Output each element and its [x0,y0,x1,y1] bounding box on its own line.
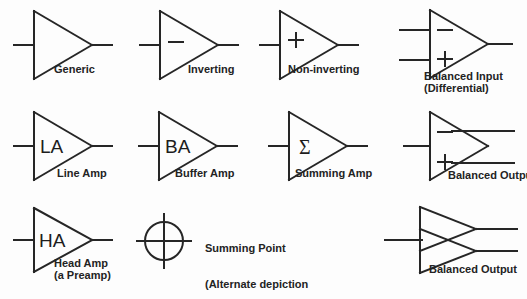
symbol-generic-amplifier-label: Generic [54,64,95,76]
symbol-balanced-output-dual-amplifier-label: Balanced Output [429,264,517,276]
symbol-head-amplifier: HA Head Amp (a Preamp) [8,204,126,276]
symbol-buffer-amplifier: BA Buffer Amp [133,108,257,184]
symbol-summing-amplifier-label: Summing Amp [295,168,372,180]
symbol-generic-amplifier: Generic [8,6,126,84]
symbol-buffer-amplifier-label: Buffer Amp [175,168,234,180]
symbol-inverting-amplifier-label: Inverting [188,64,234,76]
symbol-head-amplifier-label-line1: Head Amp [54,258,108,270]
symbol-balanced-input-amplifier-label-line2: (Differential) [424,83,489,95]
head-amplifier-inside-mark: HA [39,230,66,251]
symbol-line-amplifier: LA Line Amp [8,108,126,184]
summing-point-note-line1: Summing Point [205,242,308,254]
symbol-balanced-output-amplifier-label: Balanced Output [448,170,527,182]
symbol-inverting-amplifier: Inverting [138,6,260,84]
balanced-input-amplifier-icon [396,6,522,80]
symbol-summing-amplifier: Σ Summing Amp [263,108,389,184]
amplifier-symbols-figure: Generic Inverting [0,0,527,299]
symbol-balanced-input-amplifier: Balanced Input (Differential) [396,6,522,80]
symbol-summing-point [126,206,206,276]
summing-point-note-line2: (Alternate depiction [205,278,308,290]
symbol-line-amplifier-label: Line Amp [57,168,107,180]
symbol-balanced-output-dual-amplifier: Balanced Output [345,202,523,278]
symbol-balanced-input-amplifier-label-line1: Balanced Input [424,71,503,83]
symbol-balanced-output-amplifier: Balanced Output [396,106,524,184]
symbol-non-inverting-amplifier-label: Non-inverting [288,64,360,76]
summing-point-icon [126,206,206,276]
symbol-head-amplifier-label-line2: (a Preamp) [54,270,111,282]
summing-point-note: Summing Point (Alternate depiction of su… [205,218,308,299]
summing-amplifier-inside-mark: Σ [299,136,311,158]
line-amplifier-inside-mark: LA [40,136,64,157]
symbol-non-inverting-amplifier: Non-inverting [258,6,386,84]
buffer-amplifier-inside-mark: BA [165,136,191,157]
